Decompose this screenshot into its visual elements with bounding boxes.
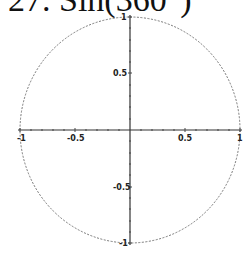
x-tick-label-neg1: -1 bbox=[17, 134, 26, 143]
x-tick-label-pos05: 0.5 bbox=[178, 134, 193, 143]
y-tick-label-pos05: 0.5 bbox=[113, 69, 128, 78]
x-tick-label-neg05: -0.5 bbox=[67, 134, 85, 143]
y-tick-label-neg1: -1 bbox=[119, 239, 128, 248]
y-tick-label-pos1: 1 bbox=[121, 13, 127, 22]
x-tick-label-pos1: 1 bbox=[237, 134, 243, 143]
plot-area: -1 -0.5 0.5 1 1 0.5 -0.5 -1 bbox=[0, 0, 247, 253]
y-tick-label-neg05: -0.5 bbox=[113, 183, 131, 192]
